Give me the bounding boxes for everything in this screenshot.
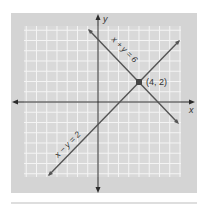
linear-system-graph: y x x + y = 6 x − y = 2 (4, 2) — [0, 0, 207, 207]
x-axis-label: x — [188, 105, 194, 115]
intersection-point-label: (4, 2) — [146, 77, 167, 87]
y-axis-label: y — [102, 14, 108, 24]
intersection-point-marker — [136, 79, 142, 85]
